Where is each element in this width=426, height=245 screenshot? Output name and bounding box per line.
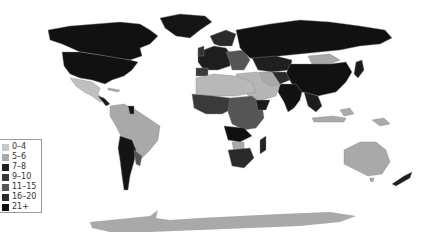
- region-borneo: [340, 108, 354, 116]
- region-cuba: [108, 88, 120, 92]
- region-southern-africa: [228, 148, 254, 168]
- legend-label: 11–15: [12, 182, 36, 192]
- legend-swatch: [2, 174, 9, 181]
- region-japan: [354, 60, 364, 78]
- region-iberia: [196, 68, 208, 76]
- region-tasmania: [370, 178, 374, 182]
- region-new-zealand: [392, 172, 412, 186]
- region-uk: [198, 46, 204, 56]
- legend-item: 11–15: [2, 182, 41, 192]
- region-argentina-chile: [118, 136, 136, 190]
- legend-item: 21+: [2, 202, 41, 212]
- region-west-africa: [192, 94, 234, 114]
- legend-label: 5–6: [12, 152, 26, 162]
- region-india: [278, 84, 302, 112]
- legend-item: 0–4: [2, 142, 41, 152]
- region-russia: [236, 20, 392, 60]
- region-australia: [344, 142, 390, 176]
- legend-label: 16–20: [12, 192, 36, 202]
- legend-item: 9–10: [2, 172, 41, 182]
- legend-swatch: [2, 154, 9, 161]
- legend-item: 16–20: [2, 192, 41, 202]
- world-choropleth-map: [0, 0, 426, 245]
- region-kazakhstan: [252, 56, 292, 72]
- region-horn-of-africa: [256, 100, 270, 110]
- legend-swatch: [2, 194, 9, 201]
- legend-label: 9–10: [12, 172, 31, 182]
- map-legend: 0–4 5–6 7–8 9–10 11–15 16–20 21+: [0, 139, 42, 213]
- legend-swatch: [2, 204, 9, 211]
- legend-label: 7–8: [12, 162, 26, 172]
- region-scandinavia: [210, 30, 236, 46]
- legend-label: 21+: [12, 202, 29, 212]
- legend-item: 7–8: [2, 162, 41, 172]
- region-antarctica: [90, 210, 356, 232]
- region-mongolia: [308, 54, 340, 64]
- region-madagascar: [260, 136, 266, 154]
- legend-swatch: [2, 184, 9, 191]
- legend-swatch: [2, 144, 9, 151]
- legend-item: 5–6: [2, 152, 41, 162]
- legend-label: 0–4: [12, 142, 26, 152]
- region-indonesia: [312, 116, 346, 122]
- region-greenland: [160, 14, 212, 38]
- legend-swatch: [2, 164, 9, 171]
- region-png: [372, 118, 390, 126]
